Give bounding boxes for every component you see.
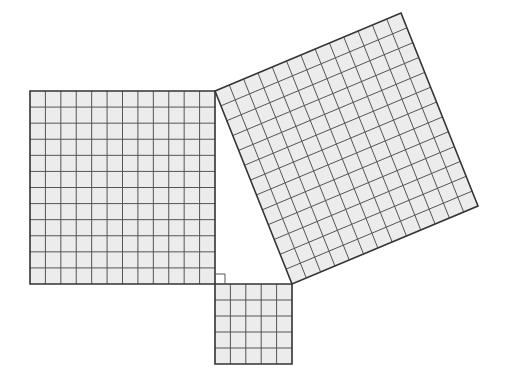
squares-layer	[30, 13, 478, 364]
square-fill	[215, 284, 292, 364]
right-angle-marker	[215, 274, 225, 284]
hypotenuse-square	[215, 13, 478, 284]
leg-a-square	[30, 91, 215, 284]
leg-b-square	[215, 284, 292, 364]
right-angle-icon	[215, 274, 225, 284]
pythagorean-diagram	[0, 0, 510, 370]
